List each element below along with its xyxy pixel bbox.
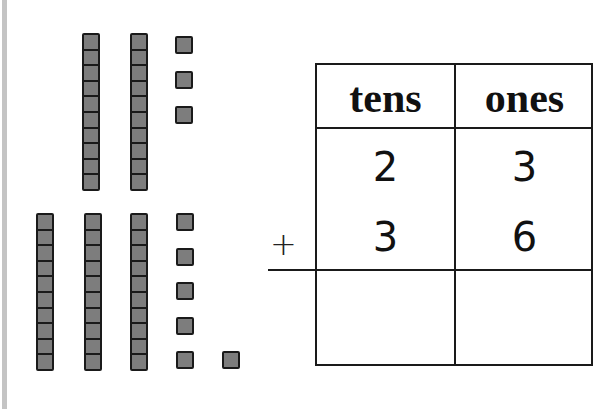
tens-rod (130, 213, 148, 371)
rod-cube (82, 173, 100, 191)
sum-ones-cell[interactable] (456, 295, 593, 355)
tens-rod (84, 213, 102, 371)
ones-unit (175, 71, 193, 89)
tens-rod (36, 213, 54, 371)
ones-unit (175, 36, 193, 54)
rod-cube (36, 353, 54, 371)
addend2-tens: 3 (317, 215, 454, 259)
tens-rod (130, 33, 148, 191)
addend1-ones: 3 (456, 145, 593, 189)
sum-line (268, 269, 593, 271)
tens-rod (82, 33, 100, 191)
plus-sign: + (270, 226, 297, 262)
place-value-table: tens ones 2 3 3 6 (315, 63, 593, 366)
header-tens: tens (317, 73, 454, 123)
ones-unit (176, 213, 194, 231)
rod-cube (84, 353, 102, 371)
header-ones: ones (456, 73, 593, 123)
ones-unit (176, 248, 194, 266)
ones-unit (176, 317, 194, 335)
left-border-bar (2, 0, 7, 409)
ones-unit (176, 282, 194, 300)
header-divider (317, 127, 591, 129)
rod-cube (130, 173, 148, 191)
ones-unit (176, 351, 194, 369)
ones-unit (175, 106, 193, 124)
addend1-tens: 2 (317, 145, 454, 189)
addend2-ones: 6 (456, 215, 593, 259)
ones-unit (222, 351, 240, 369)
sum-tens-cell[interactable] (317, 295, 454, 355)
rod-cube (130, 353, 148, 371)
